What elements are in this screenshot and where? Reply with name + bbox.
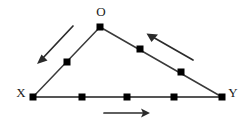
point-right-edge-1 [137, 46, 144, 53]
point-right-edge-2 [178, 69, 185, 76]
vertex-point-x [30, 94, 37, 101]
point-base-3 [171, 94, 178, 101]
point-base-1 [79, 94, 86, 101]
point-left-edge-1 [64, 59, 71, 66]
vertex-label-y: Y [228, 85, 238, 100]
geometry-figure: O X Y [0, 0, 248, 130]
vertex-point-y [219, 94, 226, 101]
vertex-point-o [97, 24, 104, 31]
vertex-label-x: X [16, 85, 26, 100]
point-base-2 [124, 94, 131, 101]
figure-background [0, 0, 248, 130]
vertex-label-o: O [96, 4, 105, 19]
figure-canvas: O X Y [0, 0, 248, 130]
